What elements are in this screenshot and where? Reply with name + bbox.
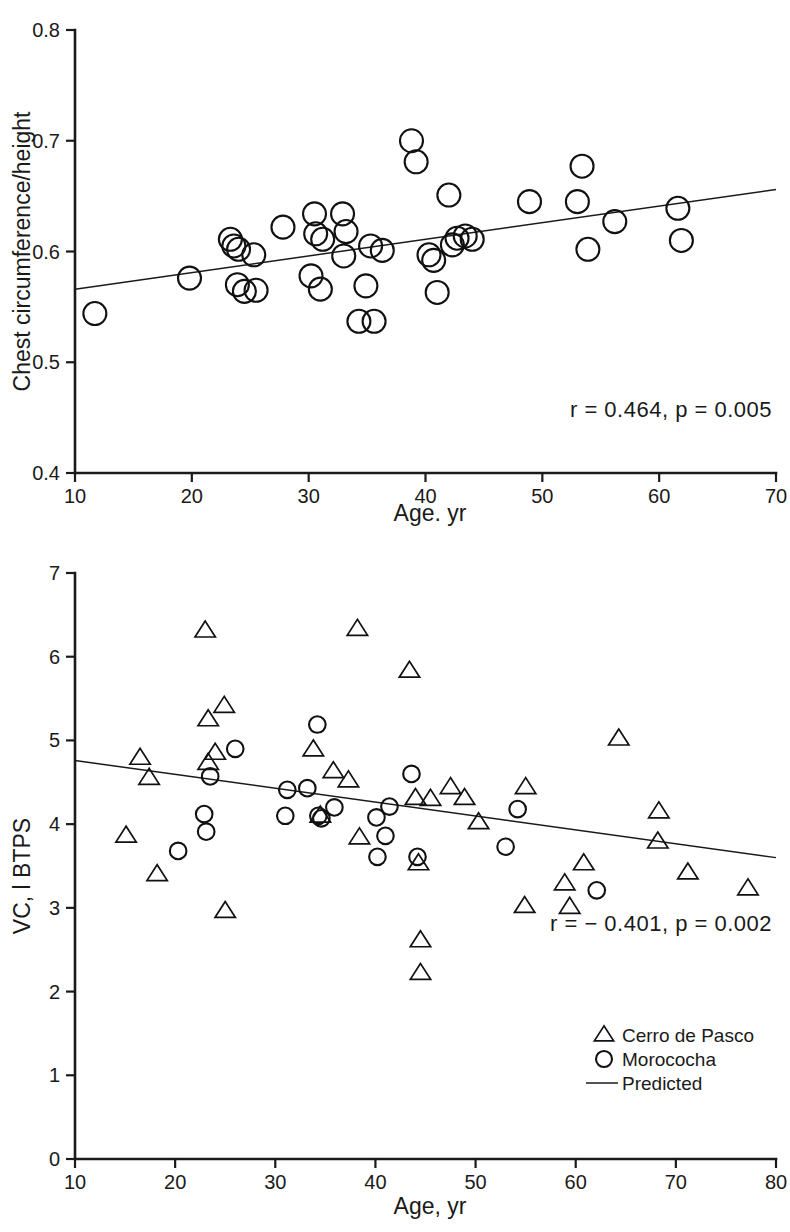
data-point-circle bbox=[299, 780, 316, 797]
data-point-circle bbox=[426, 281, 449, 304]
x-tick-label-top: 10 bbox=[64, 485, 86, 507]
y-tick-label-bottom: 4 bbox=[49, 813, 60, 835]
data-point-circle bbox=[422, 249, 445, 272]
chart-panel-chest-circumference: 0.40.50.60.70.810203040506070 Chest circ… bbox=[0, 0, 790, 540]
axis-labels-bottom: 012345671020304050607080 bbox=[49, 562, 787, 1193]
data-point-triangle bbox=[555, 874, 575, 890]
data-point-circle bbox=[509, 801, 526, 818]
data-point-triangle bbox=[609, 729, 629, 745]
data-point-circle bbox=[277, 807, 294, 824]
data-point-circle bbox=[497, 838, 514, 855]
data-point-circle bbox=[332, 244, 355, 267]
y-tick-label-bottom: 1 bbox=[49, 1064, 60, 1086]
data-point-circle bbox=[227, 741, 244, 758]
data-point-triangle bbox=[678, 863, 698, 879]
data-point-circle bbox=[363, 310, 386, 333]
data-point-circle bbox=[666, 197, 689, 220]
data-point-circle bbox=[403, 766, 420, 783]
data-point-triangle bbox=[349, 828, 369, 844]
legend-label-0: Cerro de Pasco bbox=[622, 1025, 754, 1046]
data-point-circle bbox=[369, 848, 386, 865]
data-point-triangle bbox=[410, 963, 430, 979]
y-tick-label-bottom: 0 bbox=[49, 1148, 60, 1170]
correlation-annotation-top: r = 0.464, p = 0.005 bbox=[570, 397, 772, 422]
data-point-circle bbox=[309, 716, 326, 733]
data-point-circle bbox=[170, 843, 187, 860]
data-point-triangle bbox=[514, 896, 534, 912]
data-point-triangle bbox=[147, 865, 167, 881]
data-points-top bbox=[83, 129, 693, 333]
data-point-circle bbox=[202, 768, 219, 785]
data-point-triangle bbox=[215, 902, 235, 918]
data-point-circle bbox=[400, 129, 423, 152]
x-tick-label-bottom: 80 bbox=[765, 1171, 787, 1193]
data-point-circle bbox=[271, 216, 294, 239]
data-point-circle bbox=[311, 228, 334, 251]
x-tick-label-top: 60 bbox=[648, 485, 670, 507]
data-point-triangle bbox=[420, 789, 440, 805]
data-point-circle bbox=[418, 243, 441, 266]
y-tick-label-top: 0.5 bbox=[32, 351, 60, 373]
x-tick-label-top: 50 bbox=[531, 485, 553, 507]
legend-bottom: Cerro de PascoMorocochaPredicted bbox=[586, 1025, 754, 1094]
data-point-triangle bbox=[195, 621, 215, 637]
y-tick-label-bottom: 2 bbox=[49, 981, 60, 1003]
data-point-circle bbox=[566, 190, 589, 213]
data-point-triangle bbox=[116, 826, 136, 842]
data-point-circle bbox=[178, 267, 201, 290]
data-point-circle bbox=[335, 220, 358, 243]
x-tick-label-bottom: 10 bbox=[64, 1171, 86, 1193]
x-tick-label-top: 70 bbox=[765, 485, 787, 507]
data-point-triangle bbox=[738, 879, 758, 895]
data-point-circle bbox=[377, 828, 394, 845]
data-point-triangle bbox=[205, 743, 225, 759]
x-tick-label-bottom: 20 bbox=[164, 1171, 186, 1193]
chest-circumference-scatter-plot: 0.40.50.60.70.810203040506070 Chest circ… bbox=[0, 0, 790, 540]
x-tick-label-bottom: 60 bbox=[565, 1171, 587, 1193]
data-point-circle bbox=[354, 274, 377, 297]
y-tick-label-top: 0.6 bbox=[32, 241, 60, 263]
data-point-circle bbox=[381, 798, 398, 815]
correlation-annotation-bottom: r = − 0.401, p = 0.002 bbox=[550, 911, 772, 936]
data-point-triangle bbox=[454, 788, 474, 804]
x-axis-title-bottom: Age, yr bbox=[394, 1193, 467, 1219]
x-axis-title-top: Age. yr bbox=[394, 500, 467, 526]
y-tick-label-bottom: 7 bbox=[49, 562, 60, 584]
chart-panel-vital-capacity: 012345671020304050607080 VC, l BTPS Age,… bbox=[0, 540, 790, 1232]
x-tick-label-top: 30 bbox=[298, 485, 320, 507]
data-point-circle bbox=[196, 806, 213, 823]
data-point-triangle bbox=[515, 778, 535, 794]
data-point-triangle bbox=[410, 931, 430, 947]
y-tick-label-top: 0.4 bbox=[32, 462, 60, 484]
data-point-triangle bbox=[399, 661, 419, 677]
y-axis-title-bottom: VC, l BTPS bbox=[9, 818, 35, 934]
x-tick-label-top: 20 bbox=[181, 485, 203, 507]
data-point-circle bbox=[326, 799, 343, 816]
data-point-circle bbox=[603, 210, 626, 233]
data-point-circle bbox=[242, 243, 265, 266]
y-axis-title-top: Chest circumference/height bbox=[9, 111, 35, 392]
y-tick-label-top: 0.8 bbox=[32, 19, 60, 41]
data-point-triangle bbox=[130, 748, 150, 764]
data-point-circle bbox=[588, 882, 605, 899]
data-point-circle bbox=[198, 823, 215, 840]
x-tick-label-bottom: 70 bbox=[665, 1171, 687, 1193]
data-point-triangle bbox=[649, 802, 669, 818]
x-tick-label-bottom: 40 bbox=[364, 1171, 386, 1193]
legend-label-1: Morococha bbox=[622, 1049, 716, 1070]
y-tick-label-bottom: 5 bbox=[49, 729, 60, 751]
data-point-circle bbox=[518, 190, 541, 213]
data-point-triangle bbox=[594, 1026, 613, 1041]
data-point-circle bbox=[437, 184, 460, 207]
data-point-triangle bbox=[323, 762, 343, 778]
data-point-circle bbox=[576, 238, 599, 261]
data-point-triangle bbox=[347, 619, 367, 635]
data-point-triangle bbox=[214, 696, 234, 712]
axis-labels-top: 0.40.50.60.70.810203040506070 bbox=[32, 19, 787, 507]
figure-container: 0.40.50.60.70.810203040506070 Chest circ… bbox=[0, 0, 790, 1232]
y-tick-label-top: 0.7 bbox=[32, 130, 60, 152]
data-point-circle bbox=[571, 155, 594, 178]
data-point-triangle bbox=[303, 740, 323, 756]
y-tick-label-bottom: 6 bbox=[49, 646, 60, 668]
data-point-circle bbox=[461, 228, 484, 251]
